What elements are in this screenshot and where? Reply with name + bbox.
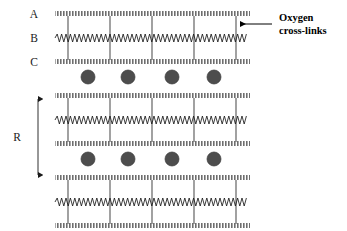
- figure-root: A B C R Oxygen cross-links: [0, 0, 347, 231]
- oxygen-crosslinks-callout: Oxygen cross-links: [240, 12, 327, 36]
- repeat-unit-3: [55, 175, 250, 228]
- repeat-unit-1: [55, 11, 250, 64]
- layer-plane-b-unit-3: [55, 198, 246, 206]
- repeat-unit-label: R: [13, 131, 21, 143]
- layer-label-a: A: [30, 8, 39, 20]
- repeat-unit-arrow: R: [13, 99, 38, 175]
- layer-plane-b-unit-1: [55, 34, 246, 42]
- oxygen-sphere: [207, 70, 221, 84]
- oxygen-sphere: [165, 70, 179, 84]
- layer-plane-a-unit-2: [55, 93, 250, 98]
- sphere-row-2: [81, 152, 221, 166]
- oxygen-sphere: [121, 70, 135, 84]
- callout-label-line1: Oxygen: [279, 12, 314, 23]
- layer-plane-c-unit-3: [55, 223, 250, 228]
- callout-label-line2: cross-links: [279, 25, 327, 36]
- layer-plane-a-unit-1: [55, 11, 250, 16]
- layer-plane-c-unit-1: [55, 59, 250, 64]
- oxygen-sphere: [81, 152, 95, 166]
- layered-structure-diagram: A B C R Oxygen cross-links: [0, 0, 347, 231]
- sphere-row-1: [81, 70, 221, 84]
- oxygen-sphere: [81, 70, 95, 84]
- layer-plane-a-unit-3: [55, 175, 250, 180]
- oxygen-sphere: [207, 152, 221, 166]
- layer-plane-c-unit-2: [55, 141, 250, 146]
- layer-plane-b-unit-2: [55, 116, 246, 124]
- layer-label-c: C: [30, 56, 38, 68]
- oxygen-sphere: [121, 152, 135, 166]
- oxygen-sphere: [165, 152, 179, 166]
- repeat-unit-2: [55, 93, 250, 146]
- layer-label-b: B: [30, 32, 38, 44]
